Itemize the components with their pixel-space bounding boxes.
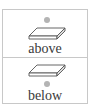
slab-icon	[27, 64, 67, 78]
position-picker-panel: above below	[2, 9, 88, 104]
dot-icon	[44, 81, 50, 87]
option-label-below: below	[3, 89, 87, 103]
option-label-above: above	[3, 42, 87, 56]
dot-icon	[44, 17, 50, 23]
slab-icon	[27, 27, 67, 41]
option-above[interactable]: above	[3, 10, 87, 57]
option-below[interactable]: below	[3, 58, 87, 105]
